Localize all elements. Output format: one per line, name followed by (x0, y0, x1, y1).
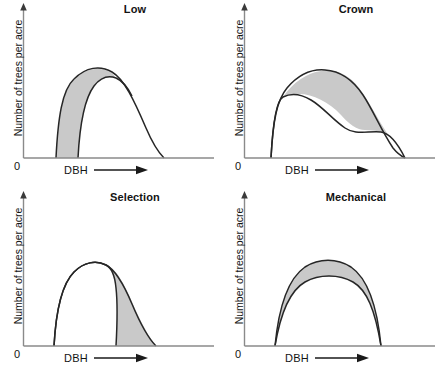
panel-title: Mechanical (276, 191, 436, 203)
origin-label: 0 (235, 160, 241, 172)
x-axis-label-group: DBH (285, 164, 371, 176)
panel-low-plot (0, 0, 220, 188)
curve-after-thinning (54, 262, 117, 346)
y-axis-label: Number of trees per acre (233, 8, 245, 148)
x-axis-label-group: DBH (64, 164, 150, 176)
removed-area-shading (275, 260, 381, 346)
panel-mechanical-plot (221, 188, 441, 376)
panel-title: Low (55, 3, 215, 15)
panel-mechanical: Mechanical Number of trees per acre 0 DB… (221, 188, 441, 376)
panel-title: Crown (276, 3, 436, 15)
x-axis-label-group: DBH (285, 352, 371, 364)
x-axis-label: DBH (285, 164, 309, 176)
removed-area-shading (283, 71, 387, 133)
panel-selection: Selection Number of trees per acre 0 DBH (0, 188, 220, 376)
x-axis-arrow-icon (313, 352, 371, 364)
x-axis-arrow-icon (92, 352, 150, 364)
x-axis-arrow-icon (92, 164, 150, 176)
x-axis-label: DBH (64, 164, 88, 176)
y-axis-label: Number of trees per acre (233, 196, 245, 336)
thinning-methods-figure: Low Number of trees per acre 0 DBH Crown… (0, 0, 441, 376)
removed-area-shading (56, 69, 116, 158)
x-axis-label: DBH (64, 352, 88, 364)
panel-selection-plot (0, 188, 220, 376)
x-axis-label: DBH (285, 352, 309, 364)
panel-crown: Crown Number of trees per acre 0 DBH (221, 0, 441, 188)
origin-label: 0 (14, 160, 20, 172)
origin-label: 0 (235, 348, 241, 360)
panel-crown-plot (221, 0, 441, 188)
y-axis-label: Number of trees per acre (12, 196, 24, 336)
y-axis-label: Number of trees per acre (12, 8, 24, 148)
panel-title: Selection (55, 191, 215, 203)
origin-label: 0 (14, 348, 20, 360)
x-axis-arrow-icon (313, 164, 371, 176)
panel-low: Low Number of trees per acre 0 DBH (0, 0, 220, 188)
x-axis-label-group: DBH (64, 352, 150, 364)
